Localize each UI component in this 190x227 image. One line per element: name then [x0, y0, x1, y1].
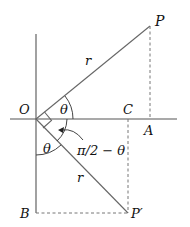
label-p-prime: P′: [130, 206, 143, 221]
segment-op-prime: [36, 119, 128, 213]
label-theta-upper: θ: [60, 102, 68, 117]
label-r-upper: r: [85, 53, 92, 68]
rotation-diagram: P O C A B P′ r r θ θ π/2 − θ: [0, 0, 190, 227]
label-b: B: [19, 206, 30, 221]
right-angle-marker: [43, 112, 52, 128]
label-a: A: [143, 123, 153, 138]
label-r-lower: r: [77, 170, 84, 185]
label-p: P: [154, 13, 165, 29]
complement-arrow: [62, 130, 83, 140]
label-c: C: [123, 102, 133, 117]
arrowhead-icon: [58, 127, 64, 133]
label-theta-lower: θ: [43, 141, 51, 156]
label-o: O: [19, 102, 30, 117]
label-complement-angle: π/2 − θ: [76, 143, 125, 158]
